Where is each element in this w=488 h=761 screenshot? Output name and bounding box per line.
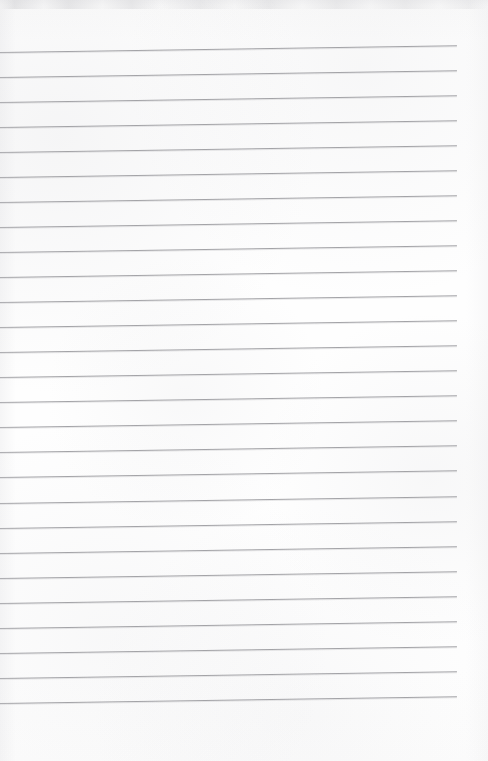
ruled-lines-group bbox=[0, 0, 488, 761]
ruled-line bbox=[0, 245, 457, 253]
ruled-line bbox=[0, 496, 457, 504]
ruled-line bbox=[0, 45, 457, 53]
ruled-line bbox=[0, 70, 457, 78]
ruled-line bbox=[0, 370, 457, 378]
ruled-line bbox=[0, 470, 457, 478]
ruled-line bbox=[0, 445, 457, 453]
ruled-line bbox=[0, 270, 457, 278]
ruled-line bbox=[0, 395, 457, 403]
ruled-line bbox=[0, 295, 457, 303]
ruled-line bbox=[0, 646, 457, 654]
ruled-line bbox=[0, 696, 457, 704]
ruled-line bbox=[0, 546, 457, 554]
ruled-line bbox=[0, 95, 457, 103]
ruled-line bbox=[0, 120, 457, 128]
ruled-line bbox=[0, 596, 457, 604]
ruled-line bbox=[0, 571, 457, 579]
ruled-line bbox=[0, 420, 457, 428]
ruled-line bbox=[0, 170, 457, 178]
ruled-line bbox=[0, 220, 457, 228]
ruled-line bbox=[0, 621, 457, 629]
ruled-line bbox=[0, 195, 457, 203]
scanned-page bbox=[0, 0, 488, 761]
ruled-line bbox=[0, 145, 457, 153]
ruled-line bbox=[0, 521, 457, 529]
ruled-line bbox=[0, 320, 457, 328]
ruled-line bbox=[0, 671, 457, 679]
ruled-line bbox=[0, 345, 457, 353]
